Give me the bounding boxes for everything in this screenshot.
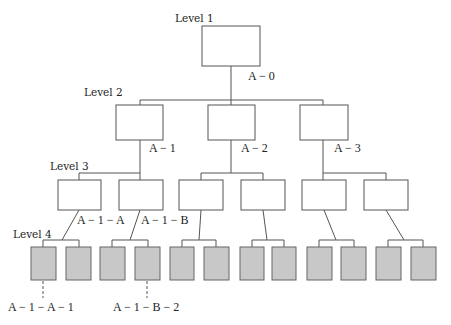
edge-l4-bus-3 xyxy=(182,240,216,247)
leaf-6 xyxy=(204,247,229,280)
label-root: A − 0 xyxy=(248,69,275,83)
leaf-1 xyxy=(31,247,56,280)
level-2-label: Level 2 xyxy=(84,86,123,98)
edge-l4-bus-4 xyxy=(252,240,284,247)
node-a2b xyxy=(241,180,285,210)
node-a2 xyxy=(208,105,255,140)
node-a3b xyxy=(364,180,408,210)
edge-a2a-down xyxy=(199,210,201,240)
node-a1b xyxy=(119,180,163,210)
edge-l4-bus-2 xyxy=(112,240,148,247)
edge-a3b-down xyxy=(386,210,404,240)
edge-l3-bus-3 xyxy=(323,173,386,180)
node-a1a xyxy=(58,180,101,210)
leaf-3 xyxy=(100,247,125,280)
leaf-12 xyxy=(411,247,436,280)
leaf-9 xyxy=(307,247,332,280)
edge-l4-bus-1 xyxy=(43,240,79,247)
leaf-7 xyxy=(240,247,264,280)
label-a1a: A − 1 − A xyxy=(77,213,125,227)
edge-a3a-down xyxy=(324,210,336,240)
node-a1 xyxy=(116,105,163,140)
edge-a2b-down xyxy=(263,210,267,240)
leaf-10 xyxy=(341,247,366,280)
label-a2: A − 2 xyxy=(241,141,268,155)
leaf-4 xyxy=(135,247,160,280)
leaf-2 xyxy=(66,247,91,280)
edge-l4-bus-5 xyxy=(319,240,354,247)
leaf-11 xyxy=(376,247,401,280)
label-leaf-4: A − 1 − B − 2 xyxy=(113,300,179,314)
label-a3: A − 3 xyxy=(334,141,361,155)
node-a3 xyxy=(300,105,348,140)
level-1-label: Level 1 xyxy=(175,12,214,24)
level-4-label: Level 4 xyxy=(13,228,52,240)
edge-a1b-down xyxy=(130,210,140,240)
label-a1: A − 1 xyxy=(149,141,176,155)
edge-l4-bus-6 xyxy=(388,240,423,247)
node-a3a xyxy=(302,180,346,210)
edge-l3-bus-1 xyxy=(79,173,140,180)
level-3-label: Level 3 xyxy=(50,160,89,172)
label-a1b: A − 1 − B xyxy=(141,213,189,227)
node-a2a xyxy=(179,180,223,210)
node-root xyxy=(202,26,260,66)
leaf-5 xyxy=(170,247,194,280)
edge-l3-bus-2 xyxy=(201,173,263,180)
hierarchy-diagram: Level 1 Level 2 Level 3 Level 4 A − 0 A … xyxy=(0,0,451,325)
leaf-8 xyxy=(272,247,296,280)
label-leaf-1: A − 1 − A − 1 xyxy=(8,300,74,314)
